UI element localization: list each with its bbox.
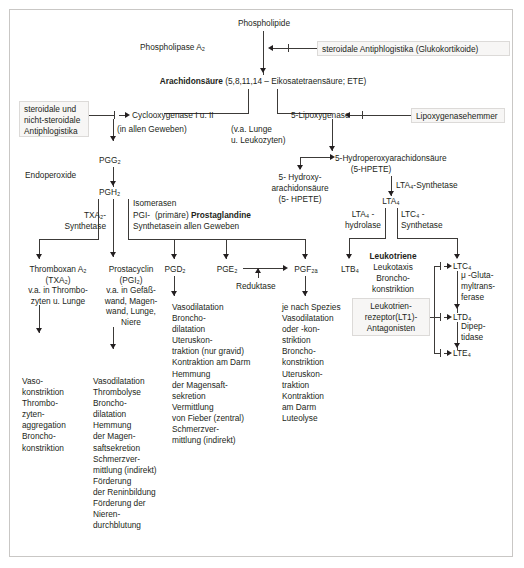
- arrowhead-lox-inhibition: [345, 112, 350, 118]
- arrowhead-inhib-ltc4: [447, 263, 452, 269]
- edge-pgh2-pgi2-stem: [113, 199, 114, 257]
- label-reduktase: Reduktase: [236, 281, 276, 292]
- diagram-page: Phospholipide Phospholipase A₂ steroidal…: [0, 0, 524, 568]
- arrowhead-hpete-right: [330, 154, 335, 160]
- arrowhead-cox-inhibition: [125, 112, 130, 118]
- label-glutamyltransferase: μ -Gluta- myltrans- ferase: [461, 270, 511, 303]
- node-hydroperoxy: 5-Hydroperoxyarachidonsäure: [335, 153, 447, 164]
- edge-hpete-hydroxy: [300, 157, 330, 158]
- edge-ltb4-horizontal: [349, 238, 386, 239]
- effects-pgi2: Vasodilatation Thrombolyse Broncho- dila…: [93, 376, 173, 531]
- arrowhead-ltd4-lte4: [454, 343, 460, 348]
- arrowhead-pge2: [223, 254, 229, 259]
- node-5-lipoxygenase: 5-Lipoxygenase: [291, 110, 350, 121]
- inhibition-bar-phospholipase: [288, 44, 289, 52]
- arrowhead-arachidonsaeure: [260, 68, 266, 73]
- box-lipoxygenasehemmer: Lipoxygenasehemmer: [411, 108, 505, 123]
- box-cox-inhibitors: steroidale und nicht-steroidale Antiphlo…: [19, 101, 89, 137]
- edge-txa2-horizontal: [39, 239, 99, 240]
- edge-arachidonsaeure-cox: [248, 89, 249, 113]
- arrowhead-inhib-ltd4: [447, 314, 452, 320]
- inhibition-bar-ltc4: [440, 262, 441, 270]
- arrowhead-pge2-pgf2a: [283, 265, 288, 271]
- arrowhead-steroid-inhibition: [268, 45, 273, 51]
- arrowhead-reduktase: [255, 268, 261, 273]
- arrowhead-pgg2: [110, 136, 116, 141]
- inhibition-bar-ltd4: [440, 313, 441, 321]
- label-lipoxygenase-note: (v.a. Lunge u. Leukozyten): [231, 124, 285, 145]
- label-dipeptidase: Dipep- tidase: [461, 321, 507, 343]
- node-pgd2: PGD₂: [155, 264, 195, 275]
- effects-pgf2a: je nach Spezies Vasodilatation oder -kon…: [282, 302, 360, 424]
- label-lta4-hydrolase: LTA₄ - hydrolase: [343, 209, 383, 231]
- node-lta4: LTA₄: [371, 196, 411, 207]
- label-endoperoxide: Endoperoxide: [25, 170, 76, 181]
- node-lte4: LTE₄: [453, 348, 471, 359]
- node-pge2: PGE₂: [207, 264, 247, 275]
- node-pgf2a: PGF₂ₐ: [285, 264, 327, 275]
- prostaglandine-prefix: (primäre): [155, 210, 191, 220]
- arrowhead-hydroxy: [297, 165, 303, 170]
- edge-ltc4-synthetase-stem: [397, 208, 398, 238]
- arrowhead-inhib-lte4: [447, 350, 452, 356]
- edge-pg-bus: [128, 239, 305, 240]
- arrowhead-txa2-effects: [36, 328, 42, 333]
- label-ltc4-synthetase: LTC₄ - Synthetase: [401, 209, 455, 231]
- label-prostaglandine-note: in allen Geweben: [175, 221, 239, 232]
- arrowhead-ltc4: [454, 254, 460, 259]
- arrowhead-ltb4: [346, 254, 352, 259]
- edge-ltc4-horizontal: [397, 238, 457, 239]
- arrowhead-pgd2-effects: [171, 291, 177, 296]
- arachidonsaeure-bold: Arachidonsäure: [160, 76, 223, 86]
- label-isomerasen: Isomerasen: [133, 198, 176, 209]
- edge-arachidonsaeure-lox: [277, 89, 278, 113]
- node-phospholipide: Phospholipide: [204, 18, 324, 29]
- effects-pgd2: Vasodilatation Broncho- dilatation Uteru…: [172, 302, 282, 446]
- edge-pge2-pgf2a: [243, 268, 283, 269]
- label-cyclooxygenase-note: (in allen Geweben): [117, 124, 187, 135]
- arrowhead-pgf2a-effects: [302, 291, 308, 296]
- inhibition-bar-lox: [362, 111, 363, 119]
- arachidonsaeure-rest: (5,8,11,14 – Eikosatetraensäure; ETE): [223, 76, 366, 86]
- arrowhead-pgh2: [110, 181, 116, 186]
- node-pgg2: PGG₂: [99, 155, 121, 166]
- label-hydroxy-abbr: (5- HPETE): [252, 194, 348, 205]
- arrowhead-pgi2-effects: [110, 344, 116, 349]
- edge-steroid-inhibition-2: [294, 48, 317, 49]
- inhibition-bar-cox: [114, 111, 115, 119]
- node-arachidonsaeure: Arachidonsäure (5,8,11,14 – Eikosatetrae…: [123, 76, 403, 87]
- arrowhead-pgf2a: [302, 254, 308, 259]
- label-leukotriene: Leukotriene: [356, 251, 430, 262]
- node-pgh2: PGH₂: [99, 187, 120, 198]
- edge-coxinhib-line1: [89, 115, 114, 116]
- box-lt1-antagonists: Leukotrien- rezeptor(LT1)- Antagonisten: [352, 298, 430, 336]
- arrowhead-hpete: [329, 146, 335, 151]
- inhibition-bar-lte4: [440, 349, 441, 357]
- edge-antagonist-bus: [434, 266, 435, 353]
- edge-loxinhib-2: [368, 115, 411, 116]
- arrowhead-prostacyclin: [110, 252, 116, 257]
- label-lta4-synthetase: LTA₄-Synthetase: [396, 180, 458, 191]
- node-prostaglandine: (primäre) Prostaglandine: [155, 210, 251, 221]
- label-txa2-synthetase: TXA₂- Synthetase: [60, 210, 106, 232]
- arrowhead-pgd2: [171, 254, 177, 259]
- arrowhead-ltc4-ltd4: [454, 304, 460, 309]
- node-thromboxan: Thromboxan A₂ (TXA₂) v.a. in Thrombo- zy…: [20, 264, 96, 306]
- effects-leukotriene: Leukotaxis Broncho- konstriktion: [356, 262, 430, 295]
- node-cyclooxygenase: Cyclooxygenase I u. II: [132, 110, 214, 121]
- edge-pgh2-pg-stem: [128, 199, 129, 239]
- edge-lta4-hydrolase-stem: [385, 208, 386, 238]
- effects-txa2: Vaso- konstriktion Thrombo- zyten- aggre…: [22, 376, 92, 454]
- node-hydroxy: 5- Hydroxy- arachidonsäure: [252, 172, 348, 193]
- label-phospholipase-a2: Phospholipase A₂: [140, 42, 205, 53]
- arrowhead-thromboxan: [36, 254, 42, 259]
- box-steroidale-antiphlogistika: steroidale Antiphlogistika (Glukokortiko…: [317, 41, 510, 56]
- prostaglandine-bold: Prostaglandine: [191, 210, 251, 220]
